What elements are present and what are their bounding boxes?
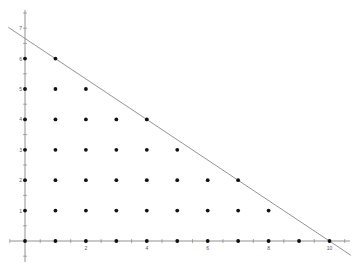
lattice-point (114, 148, 118, 152)
lattice-point (23, 87, 27, 91)
lattice-point (297, 239, 301, 243)
lattice-point (84, 178, 88, 182)
y-tick-label: 5 (19, 86, 22, 92)
lattice-point (84, 209, 88, 213)
lattice-point (23, 239, 27, 243)
axes (10, 10, 350, 262)
lattice-point (145, 118, 149, 122)
boundary-line (8, 27, 351, 255)
lattice-point (23, 178, 27, 182)
y-tick-label: 3 (19, 147, 22, 153)
y-tick-label: 1 (19, 208, 22, 214)
lattice-point (23, 57, 27, 61)
lattice-point (236, 178, 240, 182)
lattice-point (114, 178, 118, 182)
lattice-point (84, 87, 88, 91)
lattice-point (84, 239, 88, 243)
lattice-point (23, 118, 27, 122)
lattice-point (114, 209, 118, 213)
lattice-point (175, 239, 179, 243)
lattice-point-chart: 2468101234567 (0, 0, 360, 266)
lattice-point (54, 118, 58, 122)
lattice-point (145, 178, 149, 182)
lattice-point (267, 209, 271, 213)
lattice-point (84, 118, 88, 122)
lattice-point (236, 209, 240, 213)
lattice-point (23, 209, 27, 213)
lattice-point (145, 209, 149, 213)
lattice-point (175, 209, 179, 213)
x-tick-label: 10 (327, 245, 333, 251)
boundary-line-segment (8, 27, 351, 255)
lattice-point (236, 239, 240, 243)
lattice-point (145, 148, 149, 152)
lattice-point (54, 57, 58, 61)
x-tick-label: 2 (85, 245, 88, 251)
x-tick-label: 8 (267, 245, 270, 251)
y-tick-label: 6 (19, 56, 22, 62)
x-tick-label: 4 (145, 245, 148, 251)
lattice-point (267, 239, 271, 243)
lattice-point (175, 148, 179, 152)
lattice-point (328, 239, 332, 243)
lattice-point (23, 148, 27, 152)
lattice-point (54, 178, 58, 182)
lattice-point (84, 148, 88, 152)
lattice-point (54, 87, 58, 91)
lattice-points (23, 57, 331, 243)
lattice-point (54, 209, 58, 213)
tick-labels: 2468101234567 (19, 25, 332, 251)
lattice-point (206, 209, 210, 213)
lattice-point (114, 118, 118, 122)
x-tick-label: 6 (206, 245, 209, 251)
lattice-point (175, 178, 179, 182)
lattice-point (54, 148, 58, 152)
y-tick-label: 7 (19, 25, 22, 31)
y-tick-label: 2 (19, 177, 22, 183)
lattice-point (206, 178, 210, 182)
axis-ticks (10, 13, 345, 256)
lattice-point (206, 239, 210, 243)
lattice-point (114, 239, 118, 243)
y-tick-label: 4 (19, 116, 22, 122)
lattice-point (54, 239, 58, 243)
lattice-point (145, 239, 149, 243)
